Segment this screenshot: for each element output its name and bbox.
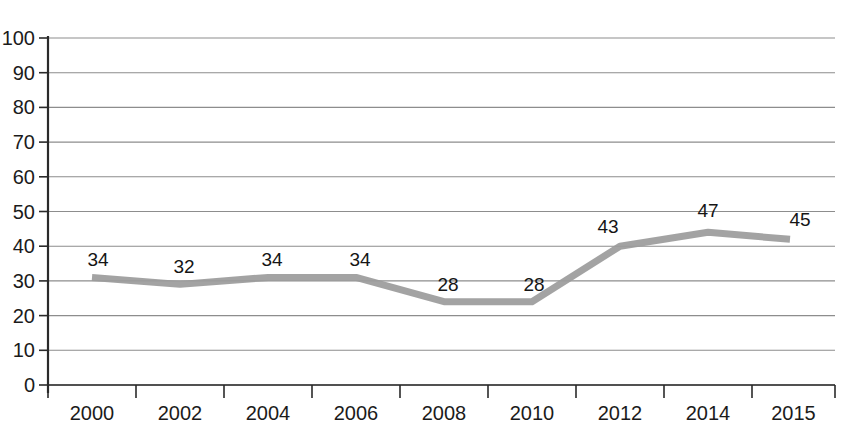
x-axis-tick-label: 2012 [598,403,643,423]
x-axis-tick-label: 2000 [70,403,115,423]
x-axis-tick-label: 2002 [158,403,203,423]
x-axis-tick-label: 2004 [246,403,291,423]
y-axis-tick-label: 10 [0,340,35,360]
data-point-value-label: 34 [87,250,108,269]
data-point-value-label: 45 [789,210,810,229]
y-axis-tick-label: 20 [0,306,35,326]
x-axis-tick-label: 2014 [686,403,731,423]
data-point-value-label: 28 [523,274,544,293]
y-axis-tick-label: 100 [0,28,35,48]
data-point-value-label: 32 [173,257,194,276]
line-chart: 0102030405060708090100 20002002200420062… [0,0,846,434]
y-axis-tick-label: 60 [0,167,35,187]
y-axis-tick-label: 0 [0,375,35,395]
data-point-value-label: 34 [349,250,370,269]
y-axis-tick-label: 40 [0,236,35,256]
y-axis-tick-label: 50 [0,202,35,222]
chart-canvas [0,0,846,434]
x-axis-tick-label: 2010 [510,403,555,423]
y-axis-tick-label: 90 [0,63,35,83]
x-tick-group [48,385,835,398]
data-point-value-label: 34 [261,250,282,269]
x-axis-tick-label: 2008 [422,403,467,423]
data-point-value-label: 47 [697,201,718,220]
y-tick-group [39,38,48,385]
y-axis-tick-label: 80 [0,97,35,117]
y-axis-tick-label: 70 [0,132,35,152]
data-point-value-label: 43 [597,217,618,236]
y-axis-tick-label: 30 [0,271,35,291]
x-axis-tick-label: 2006 [334,403,379,423]
x-axis-tick-label: 2015 [771,403,816,423]
data-point-value-label: 28 [437,274,458,293]
